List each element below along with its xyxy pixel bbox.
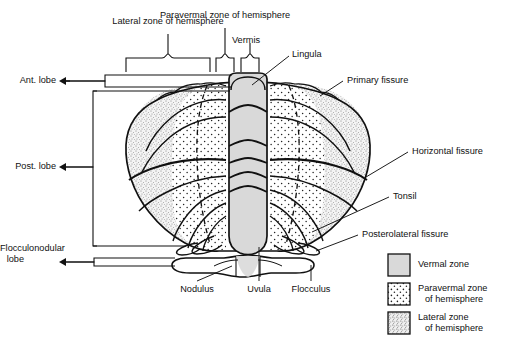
label-paravermal-zone-of-hemisphere: Paravermal zone of hemisphere (138, 10, 312, 21)
legend-swatch-lateral (388, 312, 410, 334)
label-horizontal-fissure: Horizontal fissure (412, 146, 483, 157)
label-flocculonodular-line1: Flocculonodular (0, 243, 65, 253)
label-posterolateral-fissure: Posterolateral fissure (362, 229, 448, 240)
label-ant-lobe: Ant. lobe (0, 75, 56, 86)
legend-lateral-line2: of hemisphere (418, 323, 483, 334)
legend-label-paravermal-zone: Paravermal zone of hemisphere (418, 283, 487, 304)
label-post-lobe: Post. lobe (0, 161, 56, 172)
label-uvula: Uvula (234, 284, 284, 295)
label-vermis: Vermis (232, 35, 260, 46)
legend-label-lateral-zone: Lateral zone of hemisphere (418, 312, 483, 333)
label-flocculonodular-line2: lobe (7, 254, 57, 265)
legend-label-vermal-zone: Vermal zone (418, 259, 469, 270)
label-lingula: Lingula (292, 49, 322, 60)
label-tonsil: Tonsil (393, 191, 417, 202)
label-nodulus: Nodulus (162, 284, 232, 295)
legend-lateral-line1: Lateral zone (418, 312, 469, 322)
legend-swatch-paravermal (388, 283, 410, 305)
label-primary-fissure: Primary fissure (347, 75, 408, 86)
legend-swatches (388, 254, 410, 334)
label-flocculus: Flocculus (281, 284, 341, 295)
figure-canvas: Lateral zone of hemisphere Paravermal zo… (0, 0, 506, 347)
legend-paravermal-line2: of hemisphere (418, 294, 487, 305)
label-flocculonodular-lobe: Flocculonodular lobe (0, 243, 57, 265)
legend-paravermal-line1: Paravermal zone (418, 283, 487, 293)
legend-swatch-vermal (388, 254, 410, 276)
vermis-strip (229, 73, 267, 255)
flocculonodular-lobe-shape (172, 255, 314, 277)
